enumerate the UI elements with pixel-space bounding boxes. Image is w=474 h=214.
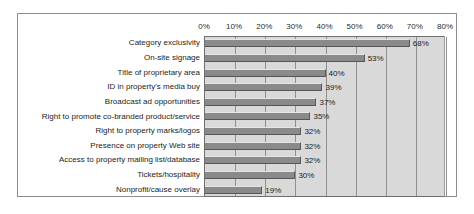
bar-value-label-10: 19% [265, 185, 281, 197]
bar-row[interactable]: 68% [205, 37, 444, 52]
category-label-7: Presence on property Web site [20, 140, 200, 152]
bar-row[interactable]: 37% [205, 96, 444, 111]
chart-figure: 0%10%20%30%40%50%60%70%80% Category excl… [0, 0, 474, 214]
bar-value-label-5: 35% [313, 111, 329, 123]
bar-value-label-7: 32% [304, 141, 320, 153]
bar-row[interactable]: 39% [205, 81, 444, 96]
bar-rows: 68%53%40%39%37%35%32%32%32%30%19% [205, 37, 444, 196]
bar-row[interactable]: 32% [205, 154, 444, 169]
category-label-6: Right to property marks/logos [20, 125, 200, 137]
bar-value-label-8: 32% [304, 155, 320, 167]
bar-value-label-2: 40% [329, 68, 345, 80]
bar-6[interactable] [205, 127, 301, 135]
bar-row[interactable]: 19% [205, 183, 444, 198]
bar-row[interactable]: 40% [205, 66, 444, 81]
gridline-8 [446, 37, 447, 196]
bar-row[interactable]: 32% [205, 125, 444, 140]
x-axis-tick-labels: 0%10%20%30%40%50%60%70%80% [204, 20, 445, 33]
category-label-1: On-site signage [20, 52, 200, 64]
bar-row[interactable]: 35% [205, 110, 444, 125]
bar-value-label-4: 37% [319, 97, 335, 109]
category-label-8: Access to property mailing list/database [20, 154, 200, 166]
category-label-2: Title of proprietary area [20, 67, 200, 79]
bar-1[interactable] [205, 54, 365, 62]
category-label-3: ID in property's media buy [20, 81, 200, 93]
bar-10[interactable] [205, 186, 262, 194]
bar-5[interactable] [205, 112, 310, 120]
bar-value-label-6: 32% [304, 126, 320, 138]
category-label-4: Broadcast ad opportunities [20, 96, 200, 108]
category-label-5: Right to promote co-branded product/serv… [20, 111, 200, 123]
bar-3[interactable] [205, 83, 322, 91]
category-axis-labels: Category exclusivityOn-site signageTitle… [20, 36, 200, 197]
bar-2[interactable] [205, 69, 326, 77]
bar-value-label-1: 53% [368, 53, 384, 65]
bar-value-label-0: 68% [413, 38, 429, 50]
category-label-9: Tickets/hospitality [20, 169, 200, 181]
bar-7[interactable] [205, 142, 301, 150]
category-label-0: Category exclusivity [20, 37, 200, 49]
bar-4[interactable] [205, 98, 316, 106]
bar-row[interactable]: 32% [205, 139, 444, 154]
bar-8[interactable] [205, 156, 301, 164]
category-label-10: Nonprofit/cause overlay [20, 184, 200, 196]
bar-row[interactable]: 30% [205, 169, 444, 184]
x-tick-label-8: 80% [425, 20, 465, 33]
bar-row[interactable]: 53% [205, 52, 444, 67]
bar-9[interactable] [205, 171, 295, 179]
plot-area: 68%53%40%39%37%35%32%32%32%30%19% [204, 36, 445, 197]
bar-0[interactable] [205, 39, 410, 47]
bar-value-label-3: 39% [325, 82, 341, 94]
bar-value-label-9: 30% [298, 170, 314, 182]
